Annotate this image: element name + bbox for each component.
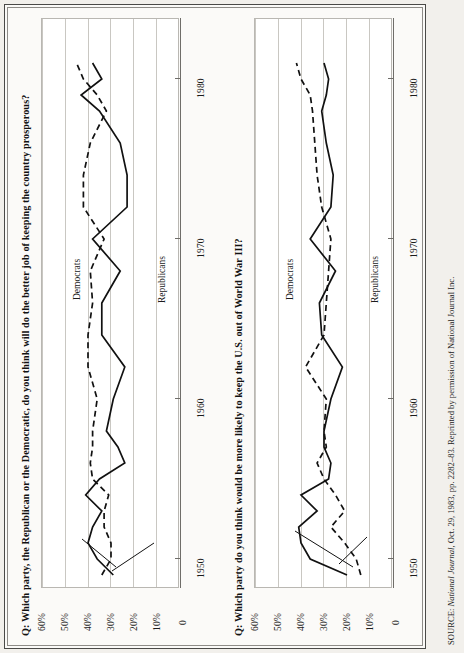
chart-1-xlabel-1980: 1980 <box>196 78 206 98</box>
source-rest: Oct. 29, 1983, pp. 2282–83. Reprinted by… <box>446 277 456 546</box>
chart-2-xlabel-1950: 1950 <box>409 558 419 578</box>
chart-2-ytick-20: 20% <box>342 613 352 631</box>
chart-2-ytick-10: 10% <box>365 613 375 631</box>
chart-1-xtick-1980 <box>175 78 181 79</box>
chart-1-xlabel-1960: 1960 <box>196 398 206 418</box>
chart-2: Q: Which party do you think would be mor… <box>213 0 428 653</box>
chart-2-xtick-1970 <box>388 238 394 239</box>
chart-2-xtick-1980 <box>388 78 394 79</box>
chart-2-ytick-40: 40% <box>296 613 306 631</box>
chart-2-plot-area <box>254 18 392 588</box>
chart-2-title: Q: Which party do you think would be mor… <box>233 26 244 636</box>
chart-1-xtick-1950 <box>175 558 181 559</box>
chart-1-plot-area <box>41 18 179 588</box>
chart-2-xlabel-1970: 1970 <box>409 238 419 258</box>
chart-1-annotation-leaders <box>42 19 180 589</box>
chart-1-xtick-1970 <box>175 238 181 239</box>
chart-1-title: Q: Which party, the Republican or the De… <box>20 26 31 636</box>
chart-2-xtick-1960 <box>388 398 394 399</box>
chart-1-ytick-60: 60% <box>37 613 47 631</box>
chart-1-xlabel-1950: 1950 <box>196 558 206 578</box>
chart-2-ytick-50: 50% <box>273 613 283 631</box>
chart-2-label-republicans: Republicans <box>370 256 380 303</box>
chart-1-xlabel-1970: 1970 <box>196 238 206 258</box>
chart-1-label-republicans: Republicans <box>157 256 167 303</box>
chart-2-label-democrats: Democrats <box>285 259 295 300</box>
chart-1-ytick-50: 50% <box>60 613 70 631</box>
source-prefix: SOURCE: <box>446 609 456 645</box>
chart-1-ytick-30: 30% <box>106 613 116 631</box>
chart-1-ytick-10: 10% <box>152 613 162 631</box>
chart-2-xlabel-1960: 1960 <box>409 398 419 418</box>
chart-1-ytick-0: 0 <box>178 620 188 625</box>
chart-1-label-democrats: Democrats <box>72 259 82 300</box>
chart-2-annotation-leaders <box>255 19 393 589</box>
chart-1-ytick-20: 20% <box>129 613 139 631</box>
chart-2-xtick-1950 <box>388 558 394 559</box>
chart-2-x-axis <box>393 18 394 588</box>
chart-1-xtick-1960 <box>175 398 181 399</box>
source-publication: National Journal, <box>446 545 456 606</box>
chart-2-xlabel-1980: 1980 <box>409 78 419 98</box>
chart-1: Q: Which party, the Republican or the De… <box>0 0 215 653</box>
chart-2-ytick-60: 60% <box>250 613 260 631</box>
chart-2-ytick-30: 30% <box>319 613 329 631</box>
chart-1-x-axis <box>180 18 181 588</box>
chart-1-ytick-40: 40% <box>83 613 93 631</box>
chart-2-ytick-0: 0 <box>391 620 401 625</box>
scanned-page: Q: Which party, the Republican or the De… <box>0 0 464 653</box>
source-note: SOURCE: National Journal, Oct. 29, 1983,… <box>446 277 456 645</box>
